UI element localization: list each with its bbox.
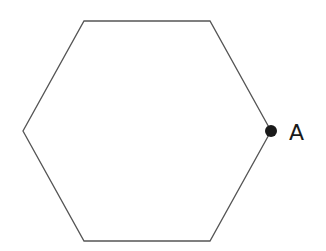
hexagon-diagram: A (0, 0, 326, 251)
point-a-label: A (289, 120, 304, 145)
hexagon (23, 21, 271, 241)
point-a-marker (265, 125, 277, 137)
